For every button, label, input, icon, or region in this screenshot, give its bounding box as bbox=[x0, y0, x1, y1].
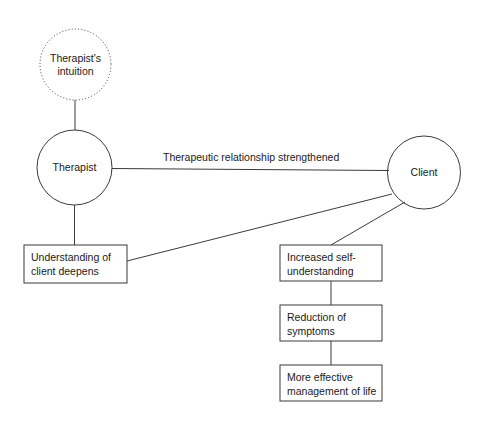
diagram-graphics bbox=[0, 0, 488, 424]
edge-client-to-self-understanding bbox=[331, 202, 405, 245]
edge-therapist-to-client bbox=[112, 169, 389, 171]
node-understanding-box bbox=[24, 245, 127, 283]
node-therapists-intuition-circle bbox=[40, 29, 111, 100]
node-therapist-circle bbox=[37, 130, 112, 205]
diagram-canvas: Therapist's intuition Therapist Client U… bbox=[0, 0, 488, 424]
node-self-understanding-box bbox=[280, 245, 382, 281]
edge-client-to-understanding bbox=[127, 194, 392, 261]
node-client-circle bbox=[388, 136, 461, 209]
node-management-box bbox=[280, 365, 382, 401]
edge-label-therapeutic-relationship: Therapeutic relationship strengthened bbox=[163, 151, 339, 164]
node-reduction-box bbox=[280, 305, 382, 341]
